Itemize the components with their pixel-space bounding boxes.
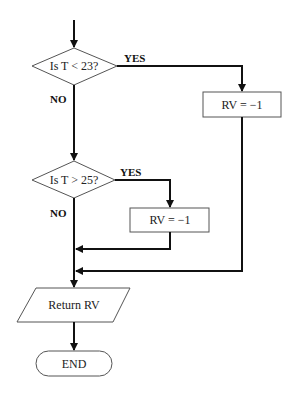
d2-no-label: NO <box>50 207 67 219</box>
p1-return-arrow <box>76 117 242 271</box>
decision-is-t-greater-25: Is T > 25? <box>32 161 115 198</box>
process-rv-minus-1-a: RV = −1 <box>203 92 281 117</box>
decision1-label: Is T < 23? <box>50 59 99 73</box>
d2-yes-label: YES <box>120 166 141 178</box>
d1-no-label: NO <box>50 93 67 105</box>
end-label: END <box>62 357 87 371</box>
process1-label: RV = −1 <box>221 98 262 112</box>
process-rv-minus-1-b: RV = −1 <box>130 208 209 232</box>
terminal-end: END <box>36 351 112 376</box>
output-return-rv: Return RV <box>17 288 130 322</box>
d2-yes-arrow <box>115 180 170 207</box>
p2-return-arrow <box>76 232 170 249</box>
process2-label: RV = −1 <box>149 213 190 227</box>
decision2-label: Is T > 25? <box>50 173 99 187</box>
decision-is-t-less-23: Is T < 23? <box>32 48 117 85</box>
flowchart-canvas: Is T < 23? YES RV = −1 NO Is T > 25? YES… <box>0 0 299 397</box>
output-label: Return RV <box>48 298 100 312</box>
d1-yes-arrow <box>117 66 242 91</box>
d1-yes-label: YES <box>124 52 145 64</box>
